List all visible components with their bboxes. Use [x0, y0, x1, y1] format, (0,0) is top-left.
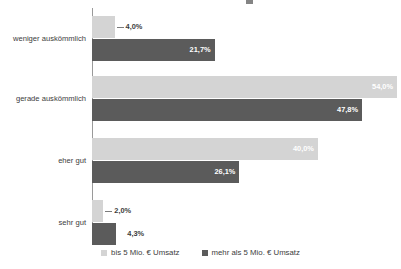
- label-leader-line: [105, 211, 112, 212]
- label-leader-line: [117, 27, 124, 28]
- bar-group: 2,0%4,3%: [92, 200, 401, 245]
- bar[interactable]: 54,0%: [92, 76, 397, 98]
- bar-value-label: 4,3%: [127, 223, 144, 245]
- bar-group: 40,0%26,1%: [92, 138, 401, 183]
- bar-value-label: 54,0%: [372, 76, 393, 98]
- cropped-legend-remnant: [246, 0, 253, 4]
- legend-item[interactable]: mehr als 5 Mio. € Umsatz: [202, 248, 300, 257]
- legend-swatch-icon: [101, 250, 107, 256]
- category-label: eher gut: [0, 156, 86, 165]
- legend-item[interactable]: bis 5 Mio. € Umsatz: [101, 248, 179, 257]
- bar-chart: weniger auskömmlichgerade auskömmlichehe…: [0, 0, 401, 269]
- legend-label: bis 5 Mio. € Umsatz: [111, 248, 179, 257]
- bar-value-label: 4,0%: [126, 16, 143, 38]
- bar-value-label: 2,0%: [114, 200, 131, 222]
- bar[interactable]: 40,0%: [92, 138, 318, 160]
- category-label: sehr gut: [0, 218, 86, 227]
- bar-value-label: 40,0%: [293, 138, 314, 160]
- bar-group: 4,0%21,7%: [92, 16, 401, 61]
- bar[interactable]: 47,8%: [92, 99, 362, 121]
- bar[interactable]: 21,7%: [92, 39, 215, 61]
- legend-label: mehr als 5 Mio. € Umsatz: [212, 248, 300, 257]
- bar[interactable]: [92, 200, 103, 222]
- category-axis-labels: weniger auskömmlichgerade auskömmlichehe…: [0, 8, 86, 240]
- bar-value-label: 21,7%: [190, 39, 211, 61]
- bar-value-label: 47,8%: [337, 99, 358, 121]
- bar[interactable]: 26,1%: [92, 161, 239, 183]
- bar[interactable]: [92, 16, 115, 38]
- category-label: weniger auskömmlich: [0, 34, 86, 43]
- chart-legend: bis 5 Mio. € Umsatzmehr als 5 Mio. € Ums…: [0, 248, 401, 257]
- bar-group: 54,0%47,8%: [92, 76, 401, 121]
- plot-area: 4,0%21,7%54,0%47,8%40,0%26,1%2,0%4,3%: [92, 8, 401, 240]
- legend-swatch-icon: [202, 250, 208, 256]
- bar[interactable]: [92, 223, 116, 245]
- category-label: gerade auskömmlich: [0, 94, 86, 103]
- bar-value-label: 26,1%: [214, 161, 235, 183]
